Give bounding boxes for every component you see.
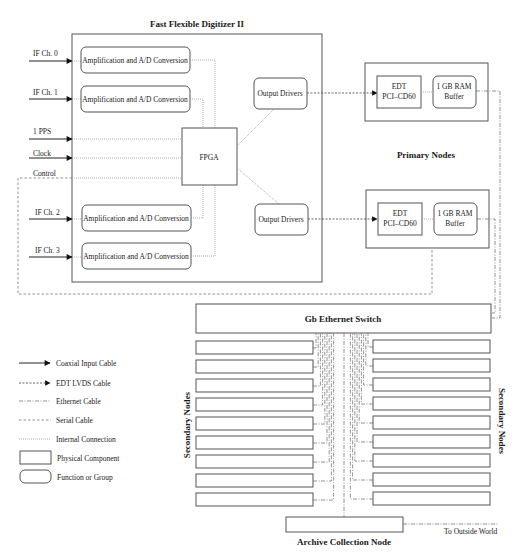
legend: Coaxial Input Cable EDT LVDS Cable Ether… xyxy=(19,359,120,483)
ram-label: Buffer xyxy=(445,219,465,228)
input-label: IF Ch. 3 xyxy=(35,246,60,255)
amp-label: Amplification and A/D Conversion xyxy=(82,95,188,104)
secondary-nodes-right-label: Secondary Nodes xyxy=(497,388,507,455)
secondary-nodes-right xyxy=(373,340,490,505)
legend-label: Coaxial Input Cable xyxy=(56,359,117,368)
input-1: IF Ch. 1 xyxy=(29,88,72,99)
ethernet-cable xyxy=(366,333,373,366)
ethernet-cable xyxy=(313,333,325,424)
secondary-nodes-left-label: Secondary Nodes xyxy=(182,391,192,458)
legend-label: EDT LVDS Cable xyxy=(56,379,111,388)
internal-connection xyxy=(237,107,276,146)
input-0: IF Ch. 0 xyxy=(29,49,72,61)
legend-label: Ethernet Cable xyxy=(56,397,101,406)
secondary-node-left xyxy=(196,398,313,411)
edt-label: PCI–CD60 xyxy=(382,92,416,101)
ethernet-cable xyxy=(313,333,334,500)
input-2: IF Ch. 2 xyxy=(29,208,72,219)
edt-label: EDT xyxy=(393,209,408,218)
input-3: IF Ch. 3 xyxy=(29,246,72,257)
serial-cable xyxy=(18,178,432,294)
secondary-node-left xyxy=(196,417,313,430)
ethernet-cable xyxy=(477,219,495,313)
amp-box-2: Amplification and A/D Conversion xyxy=(82,205,191,231)
input-label: 1 PPS xyxy=(33,127,51,136)
fpga-box: FPGA xyxy=(182,128,237,185)
ethernet-switch: Gb Ethernet Switch xyxy=(196,304,491,333)
edt-label: PCI–CD60 xyxy=(383,219,417,228)
primary-node-0: EDT PCI–CD60 1 GB RAM Buffer xyxy=(365,63,488,121)
ethernet-bundle xyxy=(313,333,373,500)
fpga-label: FPGA xyxy=(199,153,219,162)
input-label: Control xyxy=(33,169,56,178)
archive-label: Archive Collection Node xyxy=(297,537,391,547)
output-drivers-0: Output Drivers xyxy=(254,78,307,109)
input-label: IF Ch. 1 xyxy=(33,88,58,97)
secondary-node-right xyxy=(373,416,490,429)
output-drivers-label: Output Drivers xyxy=(257,89,302,98)
secondary-node-right xyxy=(373,435,490,448)
system-diagram: Fast Flexible Digitizer II IF Ch. 0 IF C… xyxy=(0,0,523,557)
secondary-node-right xyxy=(373,359,490,372)
ffd-title: Fast Flexible Digitizer II xyxy=(150,19,245,29)
secondary-nodes-left xyxy=(196,341,313,506)
switch-label: Gb Ethernet Switch xyxy=(305,314,382,324)
secondary-node-right xyxy=(373,340,490,353)
output-drivers-label: Output Drivers xyxy=(258,215,303,224)
legend-label: Internal Connection xyxy=(56,435,116,444)
edt-label: EDT xyxy=(392,82,407,91)
secondary-node-right xyxy=(373,473,490,486)
archive-node: To Outside World Archive Collection Node xyxy=(286,499,498,547)
input-pps: 1 PPS xyxy=(29,127,72,139)
ethernet-cable xyxy=(353,333,373,480)
ethernet-cable xyxy=(361,333,373,404)
secondary-node-left xyxy=(196,436,313,449)
input-control: Control xyxy=(33,169,56,178)
secondary-node-right xyxy=(373,492,490,505)
ethernet-cable xyxy=(476,91,500,318)
secondary-node-left xyxy=(196,379,313,392)
input-label: Clock xyxy=(33,149,51,158)
ffd-group: Fast Flexible Digitizer II IF Ch. 0 IF C… xyxy=(29,19,322,282)
primary-node-1: EDT PCI–CD60 1 GB RAM Buffer xyxy=(366,190,489,248)
amp-box-1: Amplification and A/D Conversion xyxy=(81,86,190,112)
legend-label: Function or Group xyxy=(57,473,113,482)
amp-label: Amplification and A/D Conversion xyxy=(82,56,188,65)
ram-label: Buffer xyxy=(444,92,464,101)
secondary-node-left xyxy=(196,493,313,506)
amp-label: Amplification and A/D Conversion xyxy=(83,214,189,223)
ram-label: 1 GB RAM xyxy=(436,82,471,91)
input-clock: Clock xyxy=(29,149,72,158)
primary-nodes-label: Primary Nodes xyxy=(397,150,456,160)
input-label: IF Ch. 0 xyxy=(33,49,58,58)
input-label: IF Ch. 2 xyxy=(35,208,60,217)
ethernet-cable xyxy=(313,333,323,405)
amp-box-0: Amplification and A/D Conversion xyxy=(81,47,190,73)
amp-label: Amplification and A/D Conversion xyxy=(83,252,189,261)
internal-connection xyxy=(237,168,279,204)
legend-label: Physical Component xyxy=(57,454,120,463)
legend-label: Serial Cable xyxy=(56,416,94,425)
ethernet-cable xyxy=(313,333,318,367)
ethernet-cable xyxy=(313,333,320,386)
secondary-node-right xyxy=(373,378,490,391)
ram-label: 1 GB RAM xyxy=(437,209,472,218)
secondary-node-left xyxy=(196,474,313,487)
amp-box-3: Amplification and A/D Conversion xyxy=(82,243,191,269)
output-drivers-1: Output Drivers xyxy=(255,204,308,235)
secondary-node-left xyxy=(196,455,313,468)
secondary-node-right xyxy=(373,397,490,410)
secondary-node-left xyxy=(196,341,313,354)
outside-world-label: To Outside World xyxy=(444,527,498,536)
ethernet-cable xyxy=(368,333,373,347)
secondary-node-right xyxy=(373,454,490,467)
internal-connection xyxy=(191,185,203,218)
secondary-node-left xyxy=(196,360,313,373)
